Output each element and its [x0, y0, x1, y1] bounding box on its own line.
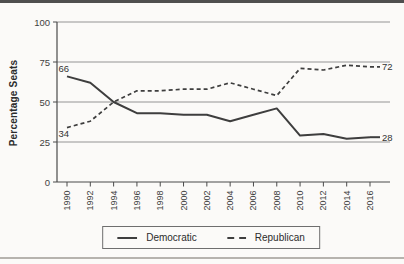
y-tick-label-25: 25	[39, 137, 50, 148]
figure: 0255075100199019921994199619982000200220…	[0, 0, 404, 264]
y-tick-label-0: 0	[45, 177, 50, 188]
bottom-rule	[0, 257, 404, 259]
dashed-line-swatch	[227, 236, 246, 240]
start-value-label-republican: 34	[58, 128, 69, 139]
x-tick-label-2016: 2016	[365, 191, 375, 211]
legend-label-democratic: Democratic	[146, 232, 197, 243]
legend-item-democratic: Democratic	[117, 232, 197, 243]
y-tick-label-50: 50	[39, 97, 50, 108]
x-tick-label-1992: 1992	[85, 191, 95, 211]
end-value-label-democratic: 28	[382, 132, 393, 143]
x-tick-label-2002: 2002	[202, 191, 212, 211]
x-tick-label-2014: 2014	[342, 191, 352, 211]
legend-label-republican: Republican	[255, 232, 305, 243]
x-tick-label-2000: 2000	[179, 191, 189, 211]
x-tick-label-2008: 2008	[272, 191, 282, 211]
legend: Democratic Republican	[102, 226, 320, 249]
x-tick-label-2006: 2006	[248, 191, 258, 211]
x-tick-label-2012: 2012	[318, 191, 328, 211]
seats-line-chart: 0255075100199019921994199619982000200220…	[0, 0, 404, 264]
solid-line-swatch	[117, 236, 137, 240]
end-value-label-republican: 72	[382, 61, 393, 72]
x-tick-label-1994: 1994	[109, 191, 119, 211]
start-value-label-democratic: 66	[58, 63, 69, 74]
x-tick-label-2010: 2010	[295, 191, 305, 211]
x-tick-label-1998: 1998	[155, 191, 165, 211]
y-tick-label-100: 100	[34, 17, 50, 28]
y-tick-label-75: 75	[39, 57, 50, 68]
x-tick-label-2004: 2004	[225, 191, 235, 211]
y-axis-title: Percentage Seats	[8, 60, 19, 147]
x-tick-label-1996: 1996	[132, 191, 142, 211]
legend-item-republican: Republican	[227, 232, 305, 243]
x-tick-label-1990: 1990	[62, 191, 72, 211]
